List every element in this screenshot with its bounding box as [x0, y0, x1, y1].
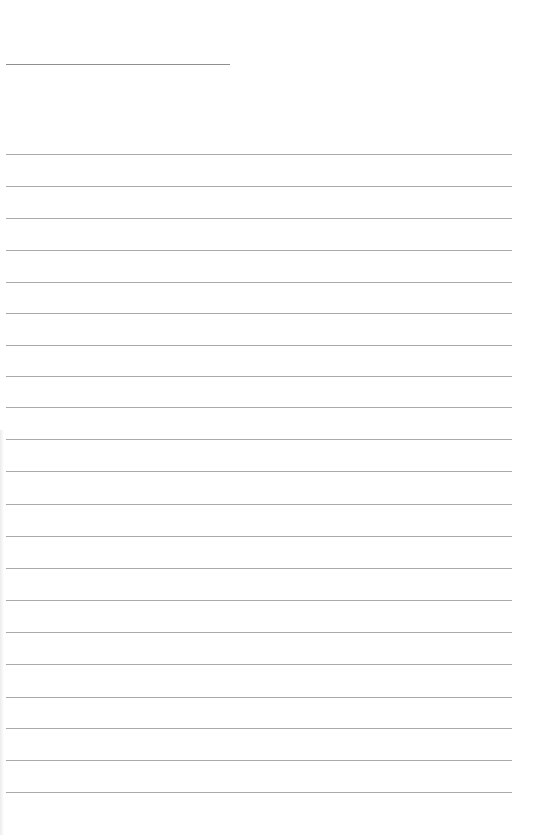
ruled-line [6, 154, 512, 155]
ruled-line [6, 536, 512, 537]
header-line [6, 64, 230, 65]
ruled-line [6, 792, 512, 793]
ruled-line [6, 568, 512, 569]
ruled-line [6, 313, 512, 314]
ruled-line [6, 407, 512, 408]
scan-edge-shadow [0, 430, 4, 835]
ruled-line [6, 376, 512, 377]
lined-paper-page [0, 0, 542, 835]
ruled-line [6, 439, 512, 440]
ruled-line [6, 471, 512, 472]
ruled-line [6, 345, 512, 346]
ruled-line [6, 186, 512, 187]
ruled-line [6, 664, 512, 665]
ruled-line [6, 282, 512, 283]
ruled-line [6, 632, 512, 633]
ruled-line [6, 728, 512, 729]
ruled-line [6, 600, 512, 601]
ruled-line [6, 760, 512, 761]
ruled-line [6, 504, 512, 505]
ruled-line [6, 250, 512, 251]
ruled-line [6, 218, 512, 219]
ruled-line [6, 697, 512, 698]
